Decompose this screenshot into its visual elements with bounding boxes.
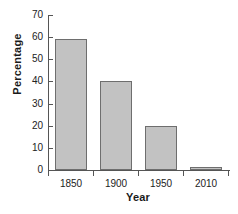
y-tick-label: 70 <box>32 9 43 20</box>
y-tick: 60 <box>48 37 53 38</box>
y-tick: 40 <box>48 81 53 82</box>
x-axis-line <box>48 170 230 171</box>
y-tick-label: 0 <box>37 164 43 175</box>
y-axis-title: Percentage <box>10 4 24 124</box>
bar <box>145 126 177 170</box>
x-tick-label: 1950 <box>139 178 183 189</box>
y-tick-label: 50 <box>32 53 43 64</box>
bar-chart: Percentage 010203040506070 1850190019502… <box>0 0 238 214</box>
x-axis-title: Year <box>45 191 231 203</box>
y-tick: 50 <box>48 59 53 60</box>
y-tick: 30 <box>48 104 53 105</box>
y-tick-label: 30 <box>32 98 43 109</box>
x-tick-mark <box>183 171 184 176</box>
y-tick-mark <box>49 15 53 16</box>
y-tick-mark <box>49 37 53 38</box>
x-tick-mark <box>138 171 139 176</box>
x-tick-label: 1900 <box>94 178 138 189</box>
y-tick-mark <box>49 81 53 82</box>
bar <box>55 39 87 170</box>
y-tick-mark <box>49 170 53 171</box>
y-tick-label: 60 <box>32 31 43 42</box>
y-tick: 70 <box>48 15 53 16</box>
x-tick-label: 2010 <box>184 178 228 189</box>
y-tick-mark <box>49 59 53 60</box>
y-tick: 10 <box>48 148 53 149</box>
y-tick-mark <box>49 104 53 105</box>
y-tick-mark <box>49 148 53 149</box>
x-tick-mark <box>93 171 94 176</box>
y-tick-label: 20 <box>32 120 43 131</box>
x-tick-mark <box>48 171 49 176</box>
y-tick-label: 10 <box>32 142 43 153</box>
plot-area: 010203040506070 1850190019502010 <box>48 15 228 170</box>
y-tick: 20 <box>48 126 53 127</box>
y-tick-label: 40 <box>32 75 43 86</box>
y-tick-mark <box>49 126 53 127</box>
x-tick-label: 1850 <box>49 178 93 189</box>
x-tick-mark <box>228 171 229 176</box>
bar <box>100 81 132 170</box>
bar <box>190 167 222 170</box>
